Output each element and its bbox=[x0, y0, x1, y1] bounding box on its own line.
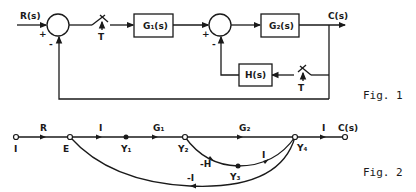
node-label-input: I bbox=[14, 144, 17, 154]
gain-g2: G₂ bbox=[239, 123, 250, 133]
figure2-caption: Fig. 2 bbox=[363, 166, 403, 179]
input-label-rs: R(s) bbox=[20, 11, 41, 21]
block-g1-label: G₁(s) bbox=[143, 21, 168, 31]
summer2-plus-sign: + bbox=[202, 29, 210, 39]
gain-minus-h: -H bbox=[200, 159, 211, 169]
gain-g1: G₁ bbox=[153, 123, 164, 133]
outer-feedback-path bbox=[59, 37, 329, 99]
node-label-y3: Y₃ bbox=[229, 172, 241, 182]
node-label-y2: Y₂ bbox=[177, 144, 189, 154]
node-input bbox=[14, 135, 19, 140]
output-label-cs: C(s) bbox=[328, 11, 348, 21]
inner-feedback-path bbox=[221, 37, 239, 75]
block-h-label: H(s) bbox=[245, 70, 266, 80]
gain-r: R bbox=[40, 123, 47, 133]
gain-output: I bbox=[322, 123, 325, 133]
node-label-output: C(s) bbox=[338, 123, 358, 133]
arrow-r bbox=[40, 135, 46, 140]
switch1-label-t: T bbox=[98, 32, 105, 42]
node-e bbox=[68, 135, 73, 140]
arrow-e-y1 bbox=[96, 135, 102, 140]
summing-junction-1 bbox=[47, 14, 69, 36]
node-y1 bbox=[124, 135, 129, 140]
arrow-minus-1 bbox=[190, 184, 196, 189]
node-y3 bbox=[236, 164, 241, 169]
arrow-output bbox=[320, 135, 326, 140]
summing-junction-2 bbox=[209, 14, 231, 36]
node-label-e: E bbox=[63, 144, 69, 154]
branch-y2-y3 bbox=[185, 137, 238, 166]
sampler-switch-1 bbox=[92, 15, 108, 30]
block-g2-label: G₂(s) bbox=[269, 21, 294, 31]
figure1-caption: Fig. 1 bbox=[363, 89, 403, 102]
arrow-g1 bbox=[152, 135, 158, 140]
summer1-minus-sign: - bbox=[49, 39, 53, 49]
block-diagram-canvas: R(s) + - T G₁(s) + - G₂(s) C(s) bbox=[0, 0, 416, 192]
sampler-switch-2 bbox=[298, 65, 311, 81]
summer2-minus-sign: - bbox=[212, 39, 216, 49]
figure-2: R I G₁ G₂ I -H I -I I E Y₁ Y₂ Y₃ Y₄ C(s)… bbox=[14, 123, 403, 189]
gain-minus-1: -I bbox=[187, 173, 194, 183]
node-y4 bbox=[293, 135, 298, 140]
node-label-y4: Y₄ bbox=[296, 143, 308, 153]
summer1-plus-sign: + bbox=[39, 29, 47, 39]
node-output bbox=[343, 135, 348, 140]
figure-1: R(s) + - T G₁(s) + - G₂(s) C(s) bbox=[17, 11, 403, 102]
gain-y3-y4: I bbox=[262, 150, 265, 160]
gain-e-y1: I bbox=[99, 123, 102, 133]
node-y2 bbox=[183, 135, 188, 140]
switch2-label-t: T bbox=[298, 83, 305, 93]
arrow-g2 bbox=[237, 135, 243, 140]
node-label-y1: Y₁ bbox=[120, 144, 132, 154]
